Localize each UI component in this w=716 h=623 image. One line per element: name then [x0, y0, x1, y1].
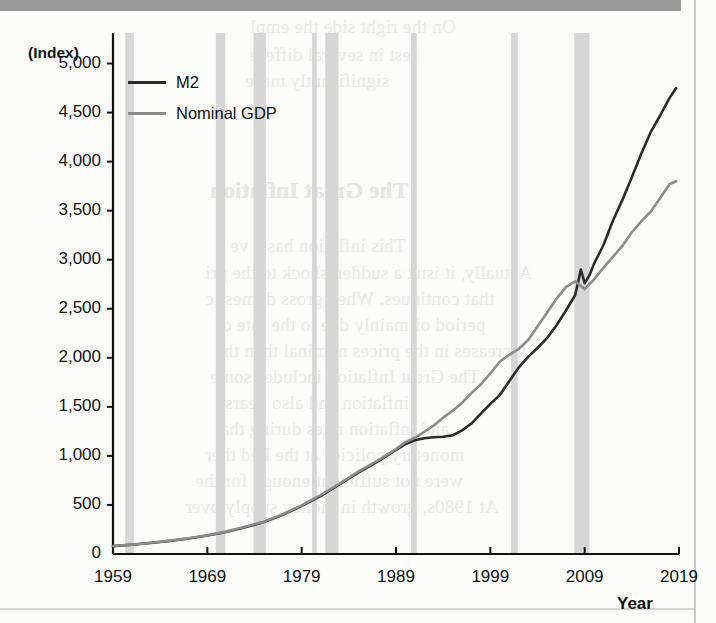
chart-figure: (Index) 05001,0001,5002,0002,5003,0003,5…: [0, 11, 694, 608]
legend-swatch-nominal-gdp: [128, 112, 166, 115]
x-axis-title: Year: [617, 594, 653, 614]
series-line-nominal-gdp: [113, 181, 676, 546]
legend-label-nominal-gdp: Nominal GDP: [176, 104, 277, 123]
x-tick-label: 1979: [267, 567, 337, 587]
top-gray-bar: [0, 0, 681, 11]
recession-band: [511, 33, 518, 554]
x-tick-label: 1999: [455, 567, 525, 587]
y-tick-label: 1,000: [29, 445, 101, 465]
y-tick-label: 0: [29, 543, 101, 563]
y-tick-label: 1,500: [29, 396, 101, 416]
legend-label-m2: M2: [176, 73, 199, 92]
right-page-rule: [694, 0, 696, 623]
figure-page: On the right side the emplrest in severa…: [0, 0, 716, 623]
y-tick-label: 2,000: [29, 347, 101, 367]
y-tick-label: 3,500: [29, 200, 101, 220]
y-tick-label: 2,500: [29, 298, 101, 318]
x-tick-label: 2019: [644, 567, 714, 587]
recession-band: [411, 33, 417, 554]
y-tick-label: 5,000: [29, 53, 101, 73]
recession-band: [312, 33, 317, 554]
x-tick-label: 1989: [361, 567, 431, 587]
x-tick-label: 2009: [550, 567, 620, 587]
y-tick-label: 3,000: [29, 249, 101, 269]
recession-band: [325, 33, 338, 554]
y-tick-label: 4,000: [29, 151, 101, 171]
bottom-page-rule: [0, 608, 694, 610]
y-tick-label: 500: [29, 494, 101, 514]
series-line-m2: [113, 88, 676, 546]
x-tick-label: 1959: [78, 567, 148, 587]
x-tick-label: 1969: [172, 567, 242, 587]
legend-swatch-m2: [128, 81, 166, 84]
chart-plot-svg: [0, 11, 694, 608]
y-tick-label: 4,500: [29, 102, 101, 122]
